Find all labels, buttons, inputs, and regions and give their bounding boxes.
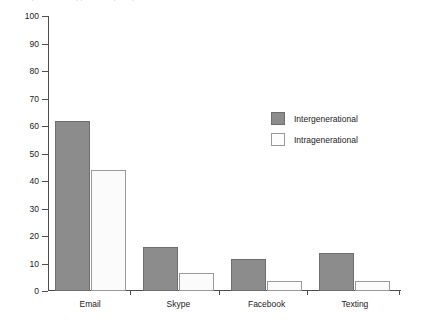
y-axis-tick bbox=[42, 44, 48, 45]
y-axis-line bbox=[48, 16, 49, 291]
y-axis-tick bbox=[42, 236, 48, 237]
x-axis-category-label: Texting bbox=[341, 299, 368, 309]
legend-label-intergenerational: Intergenerational bbox=[294, 114, 358, 124]
y-axis-tick-label: 80 bbox=[30, 66, 39, 76]
y-axis-tick-label: 30 bbox=[30, 204, 39, 214]
bar-facebook-intergenerational bbox=[231, 259, 266, 291]
x-axis-tick bbox=[307, 291, 308, 295]
plot-area: Percentage 0102030405060708090100EmailSk… bbox=[48, 16, 401, 291]
y-axis-tick-label: 50 bbox=[30, 149, 39, 159]
y-axis-tick bbox=[42, 16, 48, 17]
bar-skype-intragenerational bbox=[179, 273, 214, 291]
x-axis-tick bbox=[219, 291, 220, 295]
y-axis-tick bbox=[42, 71, 48, 72]
y-axis-tick bbox=[42, 181, 48, 182]
y-axis-tick-label: 40 bbox=[30, 176, 39, 186]
bar-group bbox=[319, 16, 390, 291]
bar-facebook-intragenerational bbox=[267, 281, 302, 291]
y-axis-tick-label: 70 bbox=[30, 94, 39, 104]
legend-item-intergenerational: Intergenerational bbox=[271, 110, 358, 127]
y-axis-tick-label: 60 bbox=[30, 121, 39, 131]
y-axis-tick bbox=[42, 291, 48, 292]
y-axis-tick bbox=[42, 99, 48, 100]
bar-group bbox=[55, 16, 126, 291]
legend-item-intragenerational: Intragenerational bbox=[271, 131, 358, 148]
bar-texting-intergenerational bbox=[319, 253, 354, 292]
y-axis-tick-label: 100 bbox=[25, 11, 39, 21]
y-axis-tick-label: 10 bbox=[30, 259, 39, 269]
bar-chart: Figure title cropped at top edge Percent… bbox=[0, 0, 423, 326]
bar-group bbox=[143, 16, 214, 291]
x-axis-category-label: Email bbox=[79, 299, 100, 309]
x-axis-category-label: Skype bbox=[167, 299, 191, 309]
y-axis-tick-label: 0 bbox=[34, 286, 39, 296]
bar-group bbox=[231, 16, 302, 291]
bar-texting-intragenerational bbox=[355, 281, 390, 291]
bar-email-intragenerational bbox=[91, 170, 126, 291]
legend-swatch-icon-intragenerational bbox=[271, 133, 285, 146]
y-axis-tick bbox=[42, 126, 48, 127]
legend-label-intragenerational: Intragenerational bbox=[294, 135, 358, 145]
bar-email-intergenerational bbox=[55, 121, 90, 292]
legend-swatch-icon-intergenerational bbox=[271, 112, 285, 125]
x-axis-tick bbox=[130, 291, 131, 295]
x-axis-tick-end bbox=[399, 291, 400, 295]
bar-skype-intergenerational bbox=[143, 247, 178, 291]
x-axis-category-label: Facebook bbox=[248, 299, 285, 309]
y-axis-tick-label: 20 bbox=[30, 231, 39, 241]
y-axis-tick bbox=[42, 264, 48, 265]
y-axis-tick-label: 90 bbox=[30, 39, 39, 49]
chart-legend: Intergenerational Intragenerational bbox=[271, 110, 358, 152]
cropped-chart-title: Figure title cropped at top edge bbox=[22, 0, 139, 1]
y-axis-tick bbox=[42, 154, 48, 155]
y-axis-tick bbox=[42, 209, 48, 210]
